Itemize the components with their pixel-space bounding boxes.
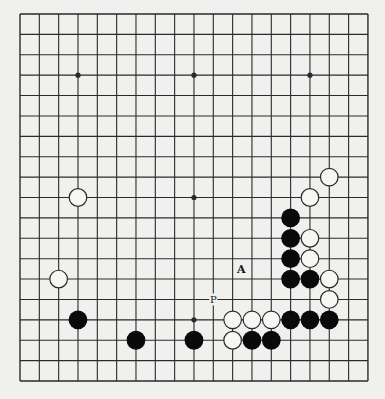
white-stone[interactable]: [320, 270, 338, 288]
white-stone[interactable]: [224, 311, 242, 329]
black-stone[interactable]: [127, 331, 146, 350]
point-label: A: [236, 263, 246, 276]
star-point-icon: [307, 73, 312, 78]
white-stone[interactable]: [243, 311, 261, 329]
go-board: AP: [0, 0, 385, 399]
white-stone[interactable]: [320, 168, 338, 186]
black-stone[interactable]: [262, 331, 281, 350]
star-point-icon: [75, 73, 80, 78]
black-stone[interactable]: [301, 270, 320, 289]
black-stone[interactable]: [281, 310, 300, 329]
black-stone[interactable]: [281, 209, 300, 228]
black-stone[interactable]: [281, 229, 300, 248]
white-stone[interactable]: [301, 250, 319, 268]
black-stone[interactable]: [320, 310, 339, 329]
black-stone[interactable]: [281, 270, 300, 289]
white-stone[interactable]: [301, 189, 319, 207]
black-stone[interactable]: [69, 310, 88, 329]
point-label: P: [210, 294, 217, 305]
star-point-icon: [191, 73, 196, 78]
star-point-icon: [191, 317, 196, 322]
black-stone[interactable]: [301, 310, 320, 329]
star-point-icon: [191, 195, 196, 200]
white-stone[interactable]: [320, 291, 338, 309]
white-stone[interactable]: [301, 229, 319, 247]
black-stone[interactable]: [185, 331, 204, 350]
black-stone[interactable]: [243, 331, 262, 350]
white-stone[interactable]: [69, 189, 87, 207]
white-stone[interactable]: [224, 331, 242, 349]
go-board-diagram: AP: [0, 0, 385, 399]
white-stone[interactable]: [50, 270, 68, 288]
black-stone[interactable]: [281, 249, 300, 268]
white-stone[interactable]: [262, 311, 280, 329]
